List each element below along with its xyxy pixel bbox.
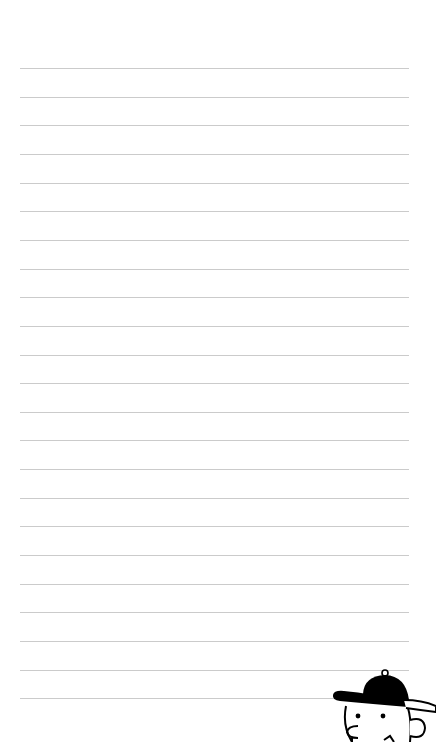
rule-line bbox=[20, 612, 409, 613]
cartoon-boy-with-cap-icon bbox=[326, 664, 436, 742]
rule-line bbox=[20, 412, 409, 413]
lined-paper-page bbox=[0, 0, 436, 742]
rule-line bbox=[20, 183, 409, 184]
rule-line bbox=[20, 68, 409, 69]
rule-line bbox=[20, 526, 409, 527]
rule-line bbox=[20, 383, 409, 384]
rule-line bbox=[20, 125, 409, 126]
rule-line bbox=[20, 269, 409, 270]
rule-line bbox=[20, 469, 409, 470]
rule-line bbox=[20, 240, 409, 241]
ruled-lines bbox=[0, 0, 436, 742]
rule-line bbox=[20, 498, 409, 499]
rule-line bbox=[20, 440, 409, 441]
rule-line bbox=[20, 355, 409, 356]
rule-line bbox=[20, 584, 409, 585]
rule-line bbox=[20, 211, 409, 212]
rule-line bbox=[20, 297, 409, 298]
rule-line bbox=[20, 97, 409, 98]
rule-line bbox=[20, 555, 409, 556]
rule-line bbox=[20, 326, 409, 327]
rule-line bbox=[20, 154, 409, 155]
rule-line bbox=[20, 641, 409, 642]
